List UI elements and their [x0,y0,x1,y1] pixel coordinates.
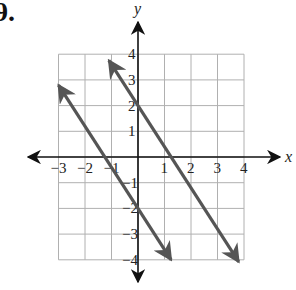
y-tick-label: −3 [122,226,138,242]
x-tick-label: 3 [214,160,222,176]
y-tick-label: −4 [122,252,138,268]
y-tick-label: 1 [128,123,136,139]
y-axis-label: y [132,0,142,18]
x-tick-label: 2 [187,160,195,176]
x-tick-label: −2 [77,160,93,176]
x-tick-label: 1 [161,160,169,176]
y-tick-label: 3 [128,72,136,88]
x-tick-label: −3 [51,160,67,176]
coordinate-plane: xy −3−2−112344321−1−2−3−4 [0,0,296,290]
x-axis-label: x [284,148,292,165]
plotted-line-2 [59,85,172,260]
x-tick-label: 4 [240,160,248,176]
y-tick-label: 4 [128,46,136,62]
